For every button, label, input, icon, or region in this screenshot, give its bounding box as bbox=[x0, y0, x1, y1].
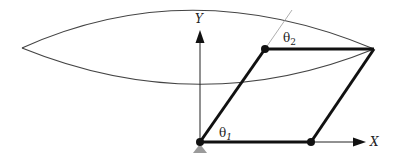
linkage-diagram: Y X θ1 θ2 bbox=[0, 0, 394, 159]
x-axis-arrow-icon bbox=[353, 138, 366, 147]
workspace-lower-curve bbox=[22, 48, 374, 84]
theta1-label: θ1 bbox=[219, 126, 232, 142]
theta2-label: θ2 bbox=[283, 31, 296, 47]
link-left bbox=[200, 49, 265, 142]
link-right bbox=[311, 49, 374, 142]
joint-origin bbox=[196, 138, 204, 146]
joint-top-left bbox=[261, 45, 269, 53]
y-axis-label: Y bbox=[195, 12, 204, 26]
joint-bottom-right bbox=[307, 138, 315, 146]
x-axis-label: X bbox=[369, 135, 379, 149]
y-axis-arrow-icon bbox=[196, 30, 205, 43]
